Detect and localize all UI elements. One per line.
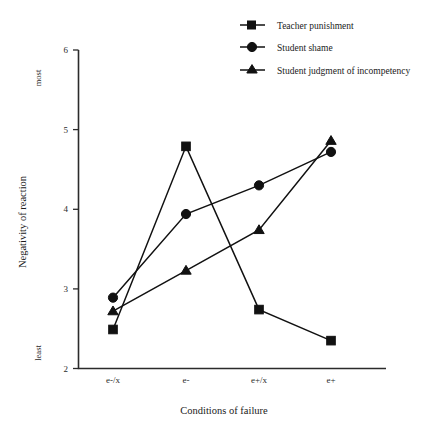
square-marker-icon bbox=[248, 21, 256, 29]
y-tick-label-4: 4 bbox=[64, 204, 69, 214]
legend-item-teacher-punishment: Teacher punishment bbox=[240, 21, 354, 31]
square-marker-icon bbox=[327, 336, 336, 345]
series-line bbox=[113, 152, 331, 298]
x-tick-label-3: e+/x bbox=[251, 375, 268, 385]
square-marker-icon bbox=[109, 325, 118, 334]
circle-marker-icon bbox=[254, 181, 263, 190]
y-axis-low-label: least bbox=[33, 345, 43, 361]
legend-label: Student judgment of incompetency bbox=[277, 66, 410, 76]
circle-marker-icon bbox=[181, 209, 190, 218]
chart-axes: 2 3 4 5 6 e-/x e- e+/x e+ most least Neg… bbox=[17, 45, 386, 416]
square-marker-icon bbox=[255, 305, 264, 314]
y-axis-high-label: most bbox=[33, 69, 43, 86]
legend-item-student-judgment: Student judgment of incompetency bbox=[240, 65, 410, 76]
x-tick-label-1: e-/x bbox=[106, 375, 120, 385]
triangle-marker-icon bbox=[326, 136, 336, 145]
series-line bbox=[113, 146, 331, 340]
chart-legend: Teacher punishment Student shame Student… bbox=[240, 21, 410, 76]
y-tick-label-3: 3 bbox=[64, 284, 69, 294]
x-tick-label-2: e- bbox=[183, 375, 190, 385]
x-tick-label-4: e+ bbox=[326, 375, 335, 385]
y-tick-label-5: 5 bbox=[64, 125, 69, 135]
circle-marker-icon bbox=[326, 147, 335, 156]
chart-figure: Teacher punishment Student shame Student… bbox=[0, 0, 445, 430]
axis-lines bbox=[79, 50, 387, 369]
chart-plot-area bbox=[108, 136, 336, 345]
triangle-marker-icon bbox=[181, 265, 191, 274]
legend-label: Teacher punishment bbox=[277, 21, 354, 31]
triangle-marker-icon bbox=[108, 306, 118, 315]
y-tick-label-2: 2 bbox=[64, 364, 69, 374]
y-tick-label-6: 6 bbox=[64, 45, 69, 55]
legend-item-student-shame: Student shame bbox=[240, 42, 333, 52]
x-axis-title: Conditions of failure bbox=[180, 405, 268, 416]
triangle-marker-icon bbox=[247, 65, 257, 73]
chart-series bbox=[108, 147, 335, 302]
square-marker-icon bbox=[182, 142, 191, 151]
legend-label: Student shame bbox=[277, 43, 333, 53]
chart-series bbox=[109, 142, 336, 345]
circle-marker-icon bbox=[108, 293, 117, 302]
circle-marker-icon bbox=[247, 42, 256, 51]
y-axis-title: Negativity of reaction bbox=[17, 175, 28, 268]
